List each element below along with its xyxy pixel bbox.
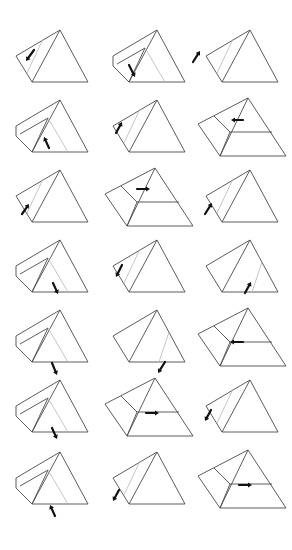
- layer-notch: [214, 326, 230, 342]
- pyramid-front-face: [129, 240, 185, 292]
- pyramid-panel: [16, 452, 88, 516]
- motion-arrow-icon: [26, 50, 34, 61]
- arrow-shaft: [205, 206, 210, 214]
- slab-divider: [217, 389, 233, 423]
- pyramid-panel: [113, 100, 185, 152]
- arrow-shaft: [46, 141, 49, 148]
- pyramid-panel: [16, 170, 88, 222]
- pyramid-figure: [0, 0, 292, 550]
- pyramid-side-edge: [206, 266, 222, 292]
- pyramid-front-face: [222, 170, 278, 222]
- slab-divider: [124, 109, 140, 143]
- arrow-shaft: [118, 265, 122, 273]
- slab-divider: [252, 262, 262, 292]
- layer-notch: [121, 396, 137, 412]
- pyramid-panel: [206, 240, 278, 293]
- pyramid-panel: [205, 170, 278, 222]
- pyramid-panel: [16, 240, 88, 294]
- motion-arrow-icon: [52, 428, 58, 439]
- pyramid-panel: [193, 30, 278, 82]
- pyramid-front-face: [129, 30, 185, 82]
- arrow-shaft: [52, 509, 55, 516]
- pyramid-side-edge: [113, 478, 129, 504]
- motion-arrow-icon: [158, 362, 165, 373]
- arrow-shaft: [52, 363, 55, 371]
- arrow-shaft: [160, 362, 165, 370]
- pyramid-panel: [16, 30, 88, 82]
- slab-divider: [159, 332, 169, 362]
- inner-left: [129, 48, 145, 82]
- pyramid-panel: [16, 380, 88, 439]
- pyramid-back-edge: [198, 308, 248, 334]
- pyramid-side-edge: [198, 476, 220, 508]
- motion-arrow-icon: [245, 282, 251, 293]
- layer-notch: [121, 186, 137, 202]
- motion-arrow-icon: [22, 204, 29, 214]
- pyramid-front-face: [129, 100, 185, 152]
- arrow-shaft: [116, 126, 120, 133]
- arrow-shaft: [52, 428, 55, 435]
- pyramid-panel: [205, 380, 278, 432]
- layer-notch: [214, 116, 230, 132]
- pyramid-panel: [113, 240, 185, 292]
- inner-left: [32, 118, 48, 152]
- pyramid-side-edge: [16, 196, 32, 222]
- pyramid-back-edge: [105, 378, 155, 404]
- pyramid-panel: [113, 310, 185, 373]
- layer-edge: [220, 342, 230, 366]
- pyramid-panel: [198, 98, 286, 156]
- pyramid-front-face: [222, 30, 278, 82]
- motion-arrow-icon: [43, 137, 49, 148]
- pyramid-front-face: [32, 452, 88, 504]
- pyramid-front-face: [32, 310, 88, 362]
- pyramid-front-face: [32, 30, 88, 82]
- pyramid-diagram-grid: [0, 0, 292, 550]
- motion-arrow-icon: [193, 51, 200, 62]
- inner-right: [145, 48, 165, 82]
- pyramid-front-face: [129, 310, 185, 362]
- arrow-shaft: [193, 54, 198, 62]
- pyramid-side-edge: [198, 124, 220, 156]
- motion-arrow-icon: [146, 410, 159, 415]
- pyramid-front-face: [220, 450, 286, 508]
- motion-arrow-icon: [205, 410, 211, 421]
- inner-right: [48, 258, 68, 292]
- motion-arrow-icon: [52, 363, 58, 375]
- pyramid-front-face: [220, 98, 286, 156]
- pyramid-panel: [105, 378, 193, 436]
- pyramid-panel: [16, 310, 88, 375]
- inner-left: [32, 398, 48, 432]
- pyramid-side-edge: [16, 56, 32, 82]
- pyramid-panel: [113, 452, 185, 504]
- layer-notch: [214, 468, 230, 484]
- pyramid-side-edge: [113, 66, 129, 82]
- pyramid-side-edge: [206, 56, 222, 82]
- pyramid-front-face: [32, 100, 88, 152]
- motion-arrow-icon: [113, 490, 119, 501]
- inner-right: [48, 470, 68, 504]
- layer-edge: [220, 132, 230, 156]
- pyramid-side-edge: [16, 416, 32, 432]
- pyramid-panel: [113, 30, 185, 82]
- arrow-head: [248, 482, 252, 487]
- inner-left: [32, 328, 48, 362]
- pyramid-side-edge: [113, 266, 129, 292]
- pyramid-front-face: [129, 452, 185, 504]
- motion-arrow-icon: [230, 339, 243, 344]
- inner-right: [48, 398, 68, 432]
- pyramid-side-edge: [105, 194, 127, 226]
- slab-divider: [217, 39, 233, 73]
- pyramid-side-edge: [16, 488, 32, 504]
- layer-edge: [127, 412, 137, 436]
- slab-divider: [124, 461, 140, 495]
- slab-divider: [27, 179, 43, 213]
- layer-edge: [127, 202, 137, 226]
- arrow-shaft: [28, 50, 34, 58]
- pyramid-side-edge: [198, 334, 220, 366]
- motion-arrow-icon: [205, 203, 212, 214]
- slab-divider: [124, 249, 140, 283]
- pyramid-back-edge: [198, 450, 248, 476]
- motion-arrow-icon: [239, 482, 252, 487]
- pyramid-front-face: [222, 380, 278, 432]
- pyramid-panel: [198, 308, 286, 366]
